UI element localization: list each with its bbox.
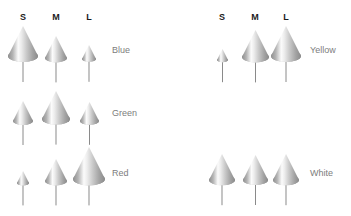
cone-shape	[82, 45, 96, 82]
cone-glyph	[77, 102, 102, 147]
cone-body	[45, 36, 67, 62]
cone-shape	[80, 102, 99, 145]
cone-shape	[13, 101, 33, 145]
cone-body	[271, 26, 301, 62]
cone-shape	[8, 26, 38, 82]
row-label-yellow: Yellow	[310, 45, 336, 55]
column-header-s: S	[13, 12, 33, 22]
cone-glyph	[270, 154, 302, 207]
cone-body	[73, 147, 105, 185]
cone-shape	[45, 159, 67, 205]
cone-glyph	[10, 101, 36, 147]
cone-glyph	[42, 159, 70, 207]
row-label-white: White	[310, 168, 333, 178]
cone-body	[80, 102, 99, 125]
cone-shape	[242, 30, 269, 82]
cone-glyph	[39, 91, 73, 147]
cone-glyph	[70, 147, 108, 207]
cone-shape	[209, 154, 235, 205]
cone-body	[13, 101, 33, 125]
cone-shape	[271, 26, 301, 82]
cone-shape	[42, 91, 70, 145]
column-header-l: L	[79, 12, 99, 22]
cone-glyph	[14, 171, 32, 207]
cone-glyph	[79, 45, 99, 84]
cone-glyph	[240, 155, 271, 207]
row-label-blue: Blue	[112, 45, 130, 55]
row-label-red: Red	[112, 168, 129, 178]
cone-shape	[243, 155, 268, 205]
cone-glyph	[214, 49, 231, 84]
cone-glyph-figure: SMLBlueGreenRedSMLYellowWhite	[0, 0, 351, 216]
column-header-m: M	[46, 12, 66, 22]
cone-glyph	[5, 26, 41, 84]
column-header-s: S	[212, 12, 232, 22]
cone-body	[42, 91, 70, 125]
cone-body	[45, 159, 67, 185]
cone-shape	[217, 49, 228, 82]
column-header-m: M	[245, 12, 265, 22]
cone-body	[82, 45, 96, 62]
cone-body	[273, 154, 299, 185]
cone-body	[209, 154, 235, 185]
column-header-l: L	[276, 12, 296, 22]
cone-shape	[45, 36, 67, 82]
cone-body	[217, 49, 228, 62]
cone-glyph	[42, 36, 70, 84]
cone-glyph	[206, 154, 238, 207]
cone-body	[242, 30, 269, 62]
cone-body	[17, 171, 29, 185]
cone-shape	[17, 171, 29, 205]
cone-body	[243, 155, 268, 185]
cone-shape	[73, 147, 105, 205]
cone-glyph	[268, 26, 304, 84]
row-label-green: Green	[112, 108, 137, 118]
cone-body	[8, 26, 38, 62]
cone-shape	[273, 154, 299, 205]
cone-glyph	[239, 30, 272, 84]
